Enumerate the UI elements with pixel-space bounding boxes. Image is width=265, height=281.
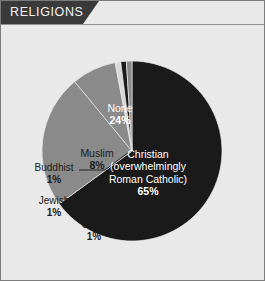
pie-label-christian-line2: (overwhelmingly	[109, 160, 187, 172]
pie-label-none-text: None	[107, 102, 132, 114]
pie-label-other-text: Other	[81, 219, 106, 231]
pie-label-other: Other 1%	[81, 219, 106, 243]
pie-label-jewish: Jewish 1%	[39, 195, 70, 219]
religions-panel: RELIGIONS Christian (overwhelmingly Roma…	[0, 0, 265, 281]
pie-value-none: 24%	[107, 114, 132, 126]
pie-label-christian-line1: Christian	[109, 148, 187, 160]
header-divider	[1, 24, 264, 25]
pie-value-muslim: 8%	[80, 159, 113, 171]
pie-label-muslim: Muslim 8%	[80, 147, 113, 172]
pie-chart: Christian (overwhelmingly Roman Catholic…	[1, 24, 264, 280]
pie-value-other: 1%	[81, 231, 106, 243]
page-title: RELIGIONS	[10, 5, 83, 19]
pie-label-christian-line3: Roman Catholic)	[109, 173, 187, 185]
pie-label-christian: Christian (overwhelmingly Roman Catholic…	[109, 148, 187, 198]
pie-value-christian: 65%	[109, 185, 187, 197]
pie-label-none: None 24%	[107, 102, 132, 127]
pie-label-jewish-text: Jewish	[39, 195, 70, 207]
pie-label-muslim-text: Muslim	[80, 147, 113, 159]
pie-label-buddhist: Buddhist 1%	[35, 162, 74, 186]
pie-value-jewish: 1%	[39, 207, 70, 219]
pie-label-buddhist-text: Buddhist	[35, 162, 74, 174]
pie-value-buddhist: 1%	[35, 174, 74, 186]
